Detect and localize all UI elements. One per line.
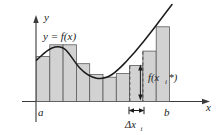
f-star-label-close: *) — [169, 72, 178, 84]
y-axis-arrowhead — [33, 15, 38, 23]
delta-x-label: Δx — [124, 119, 136, 130]
f-star-label-subscript: i — [165, 78, 167, 86]
table-row — [37, 57, 50, 102]
table-row — [116, 74, 129, 102]
table-row — [156, 27, 169, 102]
figure-canvas: y x y = f(x) a b Δx i f(x i *) — [0, 0, 222, 135]
table-row — [76, 64, 89, 102]
right-bound-label: b — [164, 106, 170, 118]
x-axis-label: x — [205, 101, 211, 113]
table-row — [103, 77, 116, 101]
delta-x-label-group: Δx i — [124, 119, 143, 133]
curve-equation-label: y = f(x) — [42, 30, 76, 43]
f-star-label-open: f(x — [148, 72, 159, 84]
riemann-sum-figure: y x y = f(x) a b Δx i f(x i *) — [0, 0, 222, 135]
delta-x-measure-arrow — [129, 107, 145, 114]
table-row — [63, 45, 76, 102]
y-axis-label: y — [43, 11, 49, 23]
left-bound-label: a — [38, 106, 44, 118]
delta-x-subscript: i — [141, 125, 143, 133]
table-row — [50, 45, 63, 102]
